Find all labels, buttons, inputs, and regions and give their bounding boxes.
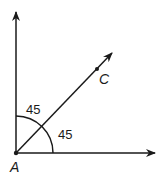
lower-angle-label: 45 <box>58 127 72 142</box>
upper-angle-label: 45 <box>26 102 40 117</box>
point-a-label: A <box>9 159 19 175</box>
point-a-dot <box>14 151 18 155</box>
angle-diagram: 45 45 C A <box>0 0 165 177</box>
point-c-label: C <box>99 71 110 87</box>
